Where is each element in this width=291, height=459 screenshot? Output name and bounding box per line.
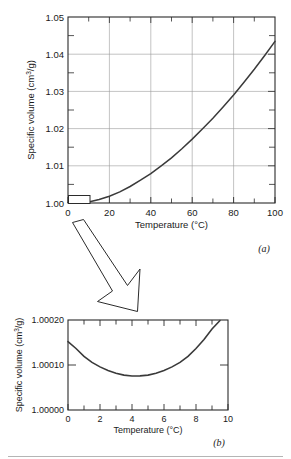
panel-a-label: (a) — [258, 243, 270, 255]
panel-a-xtick-3: 60 — [187, 207, 198, 218]
zoom-connector-arrow-icon — [73, 220, 141, 312]
panel-a-ytick-3: 1.03 — [46, 86, 65, 97]
panel-b-ytick-2: 1.00020 — [31, 315, 64, 325]
panel-b-y-axis-label-prefix: Specific volume (cm — [14, 332, 24, 413]
panel-b-xtick-0: 0 — [65, 414, 70, 424]
panel-b-y-axis-label-suffix: /g) — [14, 318, 24, 329]
panel-a-x-minor-ticks — [89, 17, 255, 203]
panel-a-gridlines-horizontal — [68, 54, 275, 166]
panel-a-y-axis-label-prefix: Specific volume (cm — [25, 75, 36, 160]
panel-b-plot-frame — [68, 320, 228, 410]
panel-a-gridlines-vertical — [109, 17, 233, 203]
panel-a-xtick-5: 100 — [267, 207, 283, 218]
panel-b-xtick-2: 4 — [129, 414, 134, 424]
panel-b: 1.00000 1.00010 1.00020 0 2 4 6 8 10 Tem… — [13, 315, 234, 449]
panel-b-x-tick-labels: 0 2 4 6 8 10 — [65, 414, 233, 424]
panel-a-xtick-4: 80 — [228, 207, 239, 218]
panel-a-x-axis-label: Temperature (°C) — [135, 219, 208, 230]
figure-svg: 1.00 1.01 1.02 1.03 1.04 1.05 0 20 40 60… — [0, 0, 291, 459]
panel-a-inset-highlight-box — [69, 196, 91, 204]
panel-b-x-axis-label: Temperature (°C) — [113, 425, 182, 435]
panel-a-y-tick-labels: 1.00 1.01 1.02 1.03 1.04 1.05 — [46, 12, 65, 209]
panel-a-ytick-0: 1.00 — [46, 198, 65, 209]
panel-b-xtick-4: 8 — [193, 414, 198, 424]
panel-a-plot-frame — [68, 17, 275, 203]
panel-b-xtick-1: 2 — [97, 414, 102, 424]
panel-b-y-axis-label: Specific volume (cm3/g) — [13, 318, 25, 413]
panel-b-data-curve — [68, 321, 220, 377]
panel-a-xtick-0: 0 — [65, 207, 70, 218]
panel-a-data-curve — [68, 41, 275, 203]
panel-b-y-tick-labels: 1.00000 1.00010 1.00020 — [31, 315, 64, 415]
panel-a-y-axis-label-suffix: /g) — [25, 60, 36, 71]
panel-a-y-axis-label: Specific volume (cm3/g) — [25, 60, 37, 160]
panel-a-ytick-2: 1.02 — [46, 123, 65, 134]
panel-a-x-tick-labels: 0 20 40 60 80 100 — [65, 207, 283, 218]
panel-a-xtick-1: 20 — [104, 207, 115, 218]
panel-a: 1.00 1.01 1.02 1.03 1.04 1.05 0 20 40 60… — [25, 12, 283, 256]
panel-a-ytick-4: 1.04 — [46, 49, 65, 60]
panel-a-xtick-2: 40 — [146, 207, 157, 218]
figure-container: 1.00 1.01 1.02 1.03 1.04 1.05 0 20 40 60… — [0, 0, 291, 459]
panel-b-xtick-5: 10 — [223, 414, 233, 424]
panel-b-ytick-1: 1.00010 — [31, 360, 64, 370]
panel-b-ytick-0: 1.00000 — [31, 405, 64, 415]
panel-a-ytick-1: 1.01 — [46, 160, 65, 171]
panel-b-xtick-3: 6 — [161, 414, 166, 424]
panel-b-label: (b) — [213, 437, 225, 449]
panel-a-ytick-5: 1.05 — [46, 12, 65, 23]
panel-b-x-ticks — [68, 320, 228, 410]
panel-a-y-minor-ticks — [68, 36, 275, 185]
